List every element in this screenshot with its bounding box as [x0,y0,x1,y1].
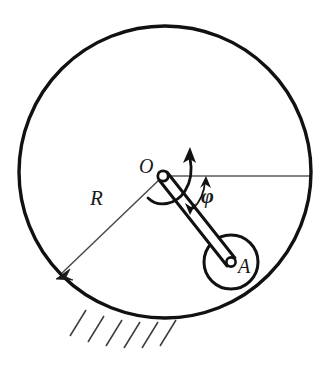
radius-dimension [56,179,160,280]
label-center-O: O [139,155,153,178]
ground-hatching [70,310,176,348]
label-roller-A: A [238,255,250,278]
pivot-joint-O [158,171,168,181]
figure-canvas [0,0,331,367]
joint-A [226,257,235,266]
label-radius-R: R [90,186,103,211]
label-angle-phi: φ [201,183,214,209]
mechanics-figure: O A R φ [0,0,331,367]
rod-OA [159,172,235,266]
